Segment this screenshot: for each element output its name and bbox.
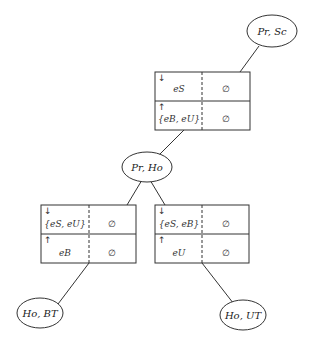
cell-text: eB (59, 248, 71, 258)
node-pr-ho: Pr, Ho (122, 152, 172, 182)
down-arrow-icon: ↓ (158, 73, 166, 83)
edge-right-hout (202, 263, 237, 308)
down-arrow-icon: ↓ (158, 206, 166, 216)
edge-prsc-top (240, 46, 259, 72)
cell-text: eS (173, 84, 185, 94)
empty-set: ∅ (222, 114, 230, 124)
node-label: Pr, Ho (130, 162, 163, 173)
node-label: Pr, Sc (256, 26, 287, 37)
edge-top-prho (159, 130, 184, 155)
empty-set: ∅ (222, 219, 230, 229)
table-right: ↓ ↑ {eS, eB} ∅ eU ∅ (155, 205, 249, 263)
empty-set: ∅ (108, 219, 116, 229)
edge-left-hobt (55, 263, 89, 308)
edge-prho-right (150, 180, 165, 205)
node-ho-bt: Ho, BT (17, 298, 63, 328)
table-left: ↓ ↑ {eS, eU} ∅ eB ∅ (41, 205, 136, 263)
up-arrow-icon: ↑ (158, 235, 166, 245)
cell-text: eU (173, 248, 186, 258)
node-label: Ho, UT (224, 310, 263, 321)
empty-set: ∅ (222, 248, 230, 258)
table-top: ↓ ↑ eS ∅ {eB, eU} ∅ (155, 72, 250, 130)
empty-set: ∅ (108, 248, 116, 258)
diagram-canvas: Pr, Sc Pr, Ho Ho, BT Ho, UT ↓ ↑ eS ∅ {eB… (0, 0, 309, 350)
down-arrow-icon: ↓ (44, 206, 52, 216)
cell-text: {eB, eU} (158, 114, 200, 124)
up-arrow-icon: ↑ (44, 235, 52, 245)
cell-text: {eS, eB} (159, 219, 199, 229)
node-pr-sc: Pr, Sc (247, 15, 297, 47)
node-ho-ut: Ho, UT (220, 300, 266, 330)
node-label: Ho, BT (21, 308, 58, 319)
up-arrow-icon: ↑ (158, 102, 166, 112)
empty-set: ∅ (222, 84, 230, 94)
edge-prho-left (127, 180, 142, 205)
cell-text: {eS, eU} (44, 219, 85, 229)
